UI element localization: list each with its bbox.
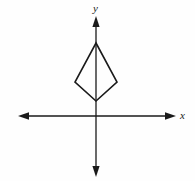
x-axis-right-arrowhead [165,112,176,120]
x-axis-label: x [180,110,185,121]
coordinate-plane [0,0,195,181]
y-axis-bottom-arrowhead [92,166,99,177]
y-axis-label: y [93,3,98,14]
figure-root: y x [0,0,195,181]
y-axis-top-arrowhead [92,16,99,27]
x-axis-left-arrowhead [18,112,29,120]
